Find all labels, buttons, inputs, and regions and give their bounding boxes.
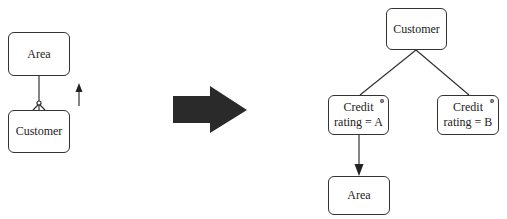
optional-marker: o xyxy=(380,97,384,105)
left-area-entity[interactable]: Area xyxy=(8,32,70,76)
optional-marker: o xyxy=(490,97,494,105)
crows-foot-connector xyxy=(33,76,45,110)
entity-label: Area xyxy=(27,47,50,62)
up-arrow-icon xyxy=(76,83,83,106)
credit-rating-b-entity[interactable]: o Credit rating = B xyxy=(437,95,499,135)
entity-label: Credit rating = B xyxy=(444,100,493,130)
entity-label: Customer xyxy=(393,22,440,37)
credit-rating-a-entity[interactable]: o Credit rating = A xyxy=(328,95,389,135)
left-customer-entity[interactable]: Customer xyxy=(8,110,70,153)
transform-arrow-icon xyxy=(173,86,247,133)
down-arrow-icon xyxy=(355,164,364,176)
entity-label: Credit rating = A xyxy=(334,100,383,130)
right-area-entity[interactable]: Area xyxy=(328,176,390,215)
entity-label: Area xyxy=(347,188,370,203)
entity-label: Customer xyxy=(16,124,63,139)
right-customer-entity[interactable]: Customer xyxy=(386,8,447,50)
